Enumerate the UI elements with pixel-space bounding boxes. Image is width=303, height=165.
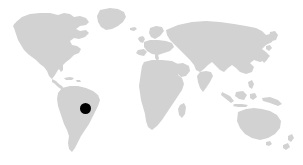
world-map-canvas bbox=[0, 0, 303, 165]
world-map-figure bbox=[0, 0, 303, 165]
location-marker bbox=[80, 103, 91, 114]
